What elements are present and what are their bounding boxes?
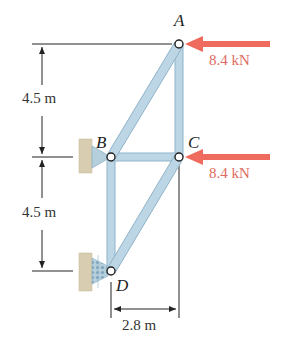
truss-diagram: A B C D 4.5 m 4.5 m 2.8 m 8.4 kN 8.4 kN (0, 0, 289, 348)
member-ac (175, 44, 183, 157)
node-label-c: C (188, 133, 199, 153)
force-label-a: 8.4 kN (209, 52, 250, 69)
force-label-c: 8.4 kN (209, 165, 250, 182)
joint-d (107, 267, 115, 275)
dimension-width: 2.8 m (121, 317, 157, 334)
joint-a (175, 40, 183, 48)
node-label-d: D (116, 276, 128, 296)
node-label-a: A (174, 11, 184, 31)
force-arrow-a (185, 36, 270, 52)
truss-members (107, 42, 183, 273)
joint-c (175, 153, 183, 161)
member-bd (107, 157, 115, 271)
node-label-b: B (96, 133, 106, 153)
member-cd (107, 155, 183, 273)
joint-b (107, 153, 115, 161)
member-bc (111, 153, 179, 161)
dimension-lower-height: 4.5 m (21, 204, 57, 221)
member-ab (107, 42, 183, 159)
dimension-upper-height: 4.5 m (21, 90, 57, 107)
roller-support-d (79, 253, 108, 291)
